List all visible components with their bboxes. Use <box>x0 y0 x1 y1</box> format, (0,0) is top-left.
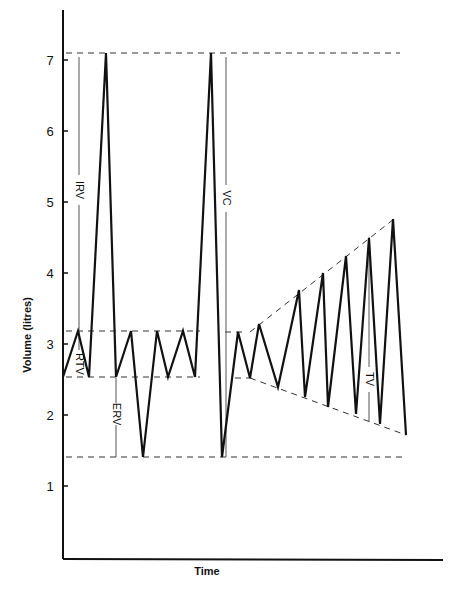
lung-volume-chart: 7 6 5 4 3 2 1 Volume (litres) Time IRV R… <box>0 0 449 590</box>
tick-label-1: 1 <box>46 479 53 494</box>
erv-label: ERV <box>111 403 123 426</box>
tick-label-7: 7 <box>46 53 53 68</box>
y-tick-labels: 7 6 5 4 3 2 1 <box>46 53 53 494</box>
tv-label: TV <box>364 372 376 387</box>
x-axis-title: Time <box>194 565 219 577</box>
tick-label-4: 4 <box>46 266 53 281</box>
annotation-bars <box>79 57 369 457</box>
vc-label: VC <box>221 190 233 205</box>
tick-label-6: 6 <box>46 124 53 139</box>
x-axis <box>63 559 443 560</box>
irv-label: IRV <box>74 181 86 200</box>
volume-trace <box>63 53 406 457</box>
tick-label-3: 3 <box>46 337 53 352</box>
y-axis-title: Volume (litres) <box>21 297 33 373</box>
tick-label-2: 2 <box>46 408 53 423</box>
tick-label-5: 5 <box>46 195 53 210</box>
